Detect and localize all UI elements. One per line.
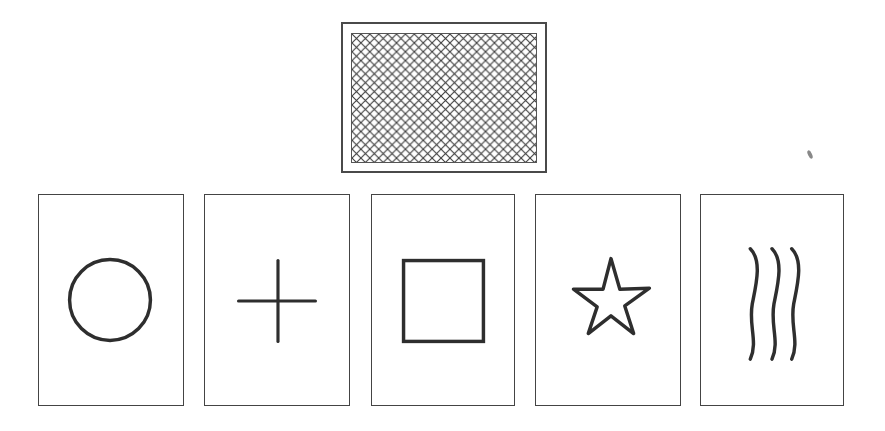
card-wavy-lines[interactable] [700,194,844,406]
card-square[interactable] [371,194,515,406]
card-cross[interactable] [204,194,350,406]
cross-icon [205,195,349,405]
star-icon [536,195,680,405]
crosshatch-pattern [351,33,537,163]
wavy-lines-icon [701,195,843,405]
card-star[interactable] [535,194,681,406]
circle-icon [39,195,183,405]
ink-speck [806,150,813,160]
square-icon [372,195,514,405]
card-back [341,22,547,173]
card-circle[interactable] [38,194,184,406]
